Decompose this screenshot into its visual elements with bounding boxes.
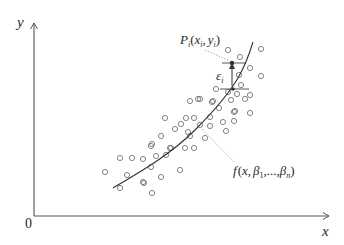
scatter-point [129,155,134,160]
scatter-point [247,110,252,115]
scatter-point [117,155,122,160]
scatter-point [187,98,192,103]
scatter-point [223,128,228,133]
scatter-point [258,73,263,78]
scatter-point [228,97,233,102]
residual-label: εi [216,68,223,85]
scatter-point [177,167,182,172]
x-axis-label: x [321,223,329,239]
scatter-point [124,172,129,177]
scatter-point [149,190,154,195]
origin-label: 0 [25,216,32,231]
scatter-point [117,185,122,190]
scatter-point [191,115,196,120]
scatter-point [231,118,236,123]
scatter-point [237,54,242,59]
y-axis-label: y [15,14,24,30]
scatter-point [225,47,230,52]
scatter-point [258,46,263,51]
scatter-point [191,145,196,150]
scatter-point [220,119,225,124]
scatter-point [162,115,167,120]
scatter-point [238,82,243,87]
scatter-point [242,96,247,101]
curve-label: f(x,β1,...,βn) [233,163,295,180]
scatter-point [102,169,107,174]
scatter-point [153,153,158,158]
scatter-point [234,91,239,96]
scatter-point [247,65,252,70]
scatter-point [178,121,183,126]
point-label: Pi(xi,yi) [179,32,220,49]
scatter-point [182,145,187,150]
curve-leader-line [200,127,234,162]
regression-diagram: y x 0 Pi(xi,yi) εi f(x,β1,...,βn) [0,0,344,245]
point-pi [230,61,234,65]
scatter-point [158,174,163,179]
scatter-point [247,92,252,97]
curve-point-fi [231,87,235,91]
scatter-point [158,133,163,138]
scatter-point [202,135,207,140]
scatter-point [140,156,145,161]
scatter-point [172,126,177,131]
scatter-point [213,86,218,91]
scatter-point [183,115,188,120]
scatter-point [207,123,212,128]
